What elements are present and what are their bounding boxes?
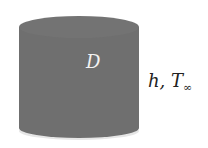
- convection-label: h, T∞: [148, 70, 192, 94]
- cylinder-body: [19, 27, 139, 138]
- convection-text: h, T: [148, 70, 183, 91]
- cylinder-top: [19, 16, 139, 38]
- diameter-label: D: [86, 51, 100, 72]
- infinity-subscript: ∞: [183, 81, 192, 94]
